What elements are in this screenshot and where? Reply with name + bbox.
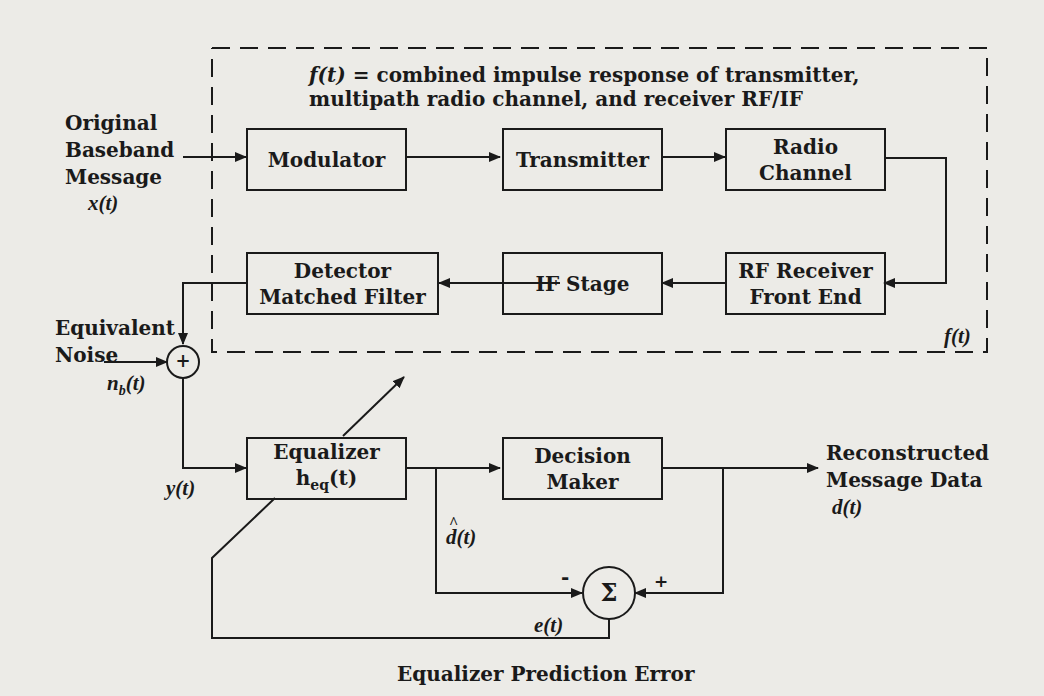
error-var: e(t): [534, 614, 563, 636]
output-label: Reconstructed Message Data: [826, 440, 989, 494]
if-stage-block: IF Stage: [502, 252, 663, 315]
summer-minus-sign: -: [561, 566, 569, 588]
modulator-block: Modulator: [246, 128, 407, 191]
caption: Equalizer Prediction Error: [397, 663, 694, 685]
decision-maker-block: Decision Maker: [502, 437, 663, 500]
equalizer-block: Equalizer heq(t): [246, 437, 407, 500]
d-hat-var: ^ d(t): [446, 526, 476, 548]
summer-plus-sign: +: [654, 570, 668, 592]
input-label: Original Baseband Message: [65, 110, 174, 191]
rf-receiver-block: RF Receiver Front End: [725, 252, 886, 315]
output-var: d(t): [832, 496, 862, 518]
noise-label: Equivalent Noise: [55, 315, 175, 369]
equalizer-input-var: y(t): [166, 477, 195, 499]
title-line-1: f(t) = combined impulse response of tran…: [309, 64, 860, 86]
detector-block: Detector Matched Filter: [246, 252, 439, 315]
summer-sigma-icon: Σ: [594, 580, 624, 606]
input-var: x(t): [88, 192, 118, 214]
equalizer-transfer-fn: heq(t): [296, 465, 357, 498]
title-ft: f(t): [309, 63, 346, 87]
title-line-2: multipath radio channel, and receiver RF…: [309, 88, 803, 110]
adder-plus-icon: +: [173, 350, 193, 372]
d-hat-accent: ^: [449, 512, 458, 534]
channel-ft-label: f(t): [944, 325, 971, 347]
noise-var: nb(t): [107, 372, 146, 402]
radio-channel-block: Radio Channel: [725, 128, 886, 191]
transmitter-block: Transmitter: [502, 128, 663, 191]
